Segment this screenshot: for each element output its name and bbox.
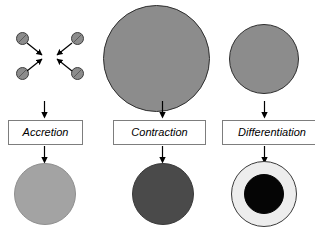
arrow-down-icon-contraction-top [157, 101, 168, 119]
result-sphere-contraction [132, 163, 194, 225]
result-core-differentiation [244, 174, 284, 214]
contraction-illustration [100, 0, 215, 112]
arrow-diagonal-icon-bl [27, 59, 42, 71]
arrow-diagonal-icon-tl [27, 43, 42, 55]
differentiation-illustration [215, 0, 315, 112]
stage-label-contraction: Contraction [113, 120, 206, 145]
column-differentiation: Differentiation [215, 0, 315, 235]
start-sphere-contraction [103, 5, 210, 112]
accretion-illustration [0, 0, 100, 112]
arrow-down-icon-contraction-bottom [157, 146, 168, 164]
arrow-diagonal-icon-tr [57, 43, 72, 55]
stage-label-accretion: Accretion [8, 120, 83, 145]
arrow-diagonal-icon-br [57, 59, 72, 71]
accretion-converging-arrows [0, 0, 100, 112]
start-sphere-differentiation [229, 24, 299, 94]
arrow-down-icon-accretion-top [39, 101, 50, 119]
column-contraction: Contraction [100, 0, 215, 235]
arrow-down-icon-differentiation-top [259, 101, 270, 119]
arrow-down-icon-accretion-bottom [39, 146, 50, 164]
diagram-canvas: Accretion Contraction [0, 0, 315, 235]
column-accretion: Accretion [0, 0, 100, 235]
result-sphere-accretion [14, 163, 76, 225]
stage-label-differentiation: Differentiation [222, 120, 315, 145]
